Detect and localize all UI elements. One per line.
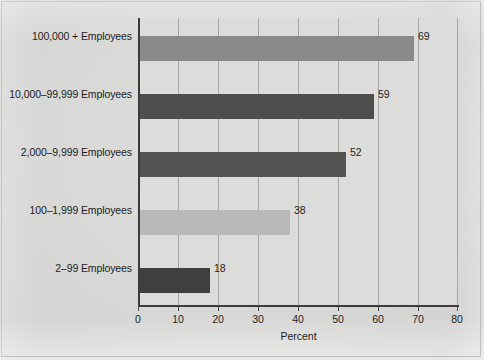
value-label-10000-99999-employees: 59 [378,88,390,100]
gridline-60 [378,18,379,305]
category-label-100-1999-employees: 100–1,999 Employees [0,204,132,216]
category-label-text: 100–1,999 Employees [29,204,132,216]
category-label-text: 2–99 Employees [55,262,132,274]
x-tick-label-70: 70 [406,313,430,325]
x-tick-label-80: 80 [445,313,469,325]
x-axis-title: Percent [138,330,459,342]
plot-area [138,18,458,305]
category-label-100000-plus-employees: 100,000 + Employees [0,30,132,42]
y-axis-line [138,18,140,306]
x-tick-70 [418,307,419,311]
category-label-text: 10,000–99,999 Employees [9,88,132,100]
x-tick-20 [218,307,219,311]
category-label-2-99-employees: 2–99 Employees [0,262,132,274]
x-tick-label-40: 40 [286,313,310,325]
bar-10000-99999-employees [138,94,374,119]
x-tick-label-30: 30 [246,313,270,325]
value-label-2-99-employees: 18 [214,262,226,274]
category-label-text: 100,000 + Employees [32,30,132,42]
gridline-70 [418,18,419,305]
x-tick-label-60: 60 [366,313,390,325]
gridline-80 [457,18,458,305]
value-label-2000-9999-employees: 52 [350,146,362,158]
x-tick-60 [378,307,379,311]
x-tick-30 [258,307,259,311]
x-tick-label-10: 10 [166,313,190,325]
value-label-100-1999-employees: 38 [294,204,306,216]
x-tick-label-50: 50 [326,313,350,325]
bar-2-99-employees [138,268,210,293]
category-label-text: 2,000–9,999 Employees [21,146,132,158]
x-tick-label-20: 20 [206,313,230,325]
x-tick-80 [457,307,458,311]
bar-chart-figure: 100,000 + Employees 10,000–99,999 Employ… [0,0,484,360]
bar-2000-9999-employees [138,152,346,177]
x-tick-0 [138,307,139,311]
x-tick-50 [338,307,339,311]
value-label-100000-plus-employees: 69 [418,30,430,42]
x-tick-10 [178,307,179,311]
bar-100-1999-employees [138,210,290,235]
category-label-10000-99999-employees: 10,000–99,999 Employees [0,88,132,100]
bar-100000-plus-employees [138,36,414,61]
x-tick-40 [298,307,299,311]
category-label-2000-9999-employees: 2,000–9,999 Employees [0,146,132,158]
x-tick-label-0: 0 [126,313,150,325]
